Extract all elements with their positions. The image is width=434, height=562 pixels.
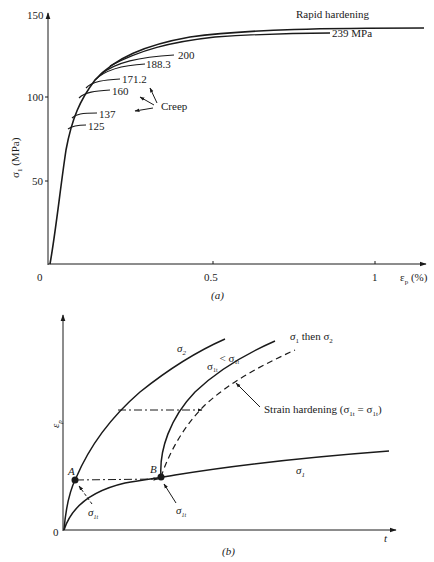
- panel-a: 150 100 50 0 0.5 1 σ1 (MPa) εp (%) Rapid…: [9, 8, 428, 302]
- label-188: 188.3: [146, 58, 171, 70]
- creep-arrow-3: [135, 108, 153, 111]
- caption-a: (a): [211, 289, 224, 302]
- tick-label-0: 0: [37, 271, 43, 283]
- tick-label-05: 0.5: [204, 271, 218, 283]
- tick-label-100: 100: [27, 91, 44, 103]
- label-200: 200: [178, 49, 195, 61]
- curve-sigma1: [64, 451, 389, 530]
- x-axis-label-a: εp (%): [400, 271, 428, 286]
- label-160: 160: [112, 85, 129, 97]
- tick-label-150: 150: [27, 9, 44, 21]
- label-strain-hardening: Strain hardening (σ1t = σ1t): [264, 403, 382, 418]
- x-axis-label-b: t: [384, 532, 388, 544]
- label-sigma1: σ1: [296, 464, 305, 479]
- label-point-B: B: [150, 463, 157, 475]
- creep-arrow-1: [150, 88, 157, 103]
- arrow-strain-hardening: [236, 383, 260, 407]
- arrow-sigma-B: [164, 484, 176, 503]
- label-rapid-hardening: Rapid hardening: [296, 8, 370, 20]
- point-A: [72, 477, 79, 484]
- panel-b: 0 t εp A B σ2 σ1 σ1 then σ2 σ1t< σ1t Str…: [49, 315, 396, 558]
- label-sigma1-then-sigma2: σ1 then σ2: [290, 330, 333, 345]
- label-creep: Creep: [161, 100, 188, 112]
- label-171: 171.2: [122, 73, 147, 85]
- label-125: 125: [88, 120, 105, 132]
- curve-rapid-hardening: [50, 28, 424, 264]
- label-sigma-A: σ1t: [88, 506, 98, 520]
- origin-label-b: 0: [53, 526, 59, 538]
- curve-sigma2: [64, 339, 225, 530]
- y-axis-label-a: σ1 (MPa): [9, 137, 24, 178]
- y-axis-label-b: εp: [49, 420, 64, 428]
- label-point-A: A: [67, 465, 75, 477]
- point-B: [158, 474, 165, 481]
- curve-sigma1-then-sigma2: [161, 341, 275, 477]
- label-sigma2: σ2: [177, 342, 186, 357]
- figure: 150 100 50 0 0.5 1 σ1 (MPa) εp (%) Rapid…: [0, 0, 434, 562]
- creep-arrow-2: [140, 97, 154, 105]
- tick-label-50: 50: [32, 175, 44, 187]
- caption-b: (b): [222, 545, 235, 558]
- label-137: 137: [99, 108, 116, 120]
- tick-label-1: 1: [372, 271, 378, 283]
- label-sigma-B: σ1t: [176, 504, 186, 518]
- arrow-sigma-A: [79, 486, 92, 504]
- label-239: 239 MPa: [332, 27, 372, 39]
